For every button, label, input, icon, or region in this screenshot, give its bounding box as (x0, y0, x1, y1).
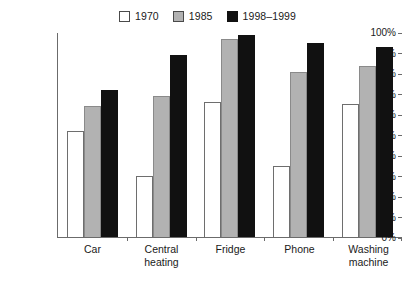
bar[interactable] (170, 55, 187, 237)
bar[interactable] (67, 131, 84, 237)
bar[interactable] (342, 104, 359, 237)
legend-item-1985: 1985 (173, 11, 213, 22)
bar[interactable] (204, 102, 221, 237)
x-axis-tick-mark (333, 237, 334, 241)
legend-item-1970: 1970 (119, 11, 159, 22)
legend-item-1998-1999: 1998–1999 (227, 11, 296, 22)
bar[interactable] (101, 90, 118, 237)
x-axis-category-label: Phone (265, 243, 334, 269)
bar[interactable] (84, 106, 101, 237)
bar-group (333, 33, 402, 237)
plot-area: 0%10%20%30%40%50%60%70%80%90%100% (57, 33, 402, 238)
bar[interactable] (376, 47, 393, 237)
bar-chart: 1970 1985 1998–1999 0%10%20%30%40%50%60%… (0, 0, 415, 288)
legend-label-1970: 1970 (135, 11, 159, 22)
bar[interactable] (307, 43, 324, 237)
x-axis-category-labels: CarCentral heatingFridgePhoneWashing mac… (58, 243, 403, 269)
bar-group (264, 33, 333, 237)
bar[interactable] (221, 39, 238, 237)
legend-label-1985: 1985 (189, 11, 213, 22)
bar-group (127, 33, 196, 237)
bar[interactable] (153, 96, 170, 237)
legend-swatch-1998-1999 (227, 11, 238, 22)
x-axis-tick-mark (401, 237, 402, 241)
bar-group (196, 33, 265, 237)
x-axis-tick-mark (127, 237, 128, 241)
bar[interactable] (136, 176, 153, 237)
x-axis-tick-mark (264, 237, 265, 241)
bar[interactable] (273, 166, 290, 237)
bar[interactable] (290, 72, 307, 237)
x-axis-line (57, 237, 402, 238)
legend-swatch-1985 (173, 11, 184, 22)
x-axis-category-label: Washing machine (334, 243, 403, 269)
bar-group (58, 33, 127, 237)
chart-legend: 1970 1985 1998–1999 (0, 11, 415, 22)
bar[interactable] (238, 35, 255, 237)
legend-swatch-1970 (119, 11, 130, 22)
legend-label-1998-1999: 1998–1999 (243, 11, 296, 22)
bar[interactable] (359, 66, 376, 237)
x-axis-tick-mark (196, 237, 197, 241)
bar-groups (58, 33, 402, 237)
x-axis-category-label: Car (58, 243, 127, 269)
x-axis-category-label: Fridge (196, 243, 265, 269)
x-axis-category-label: Central heating (127, 243, 196, 269)
